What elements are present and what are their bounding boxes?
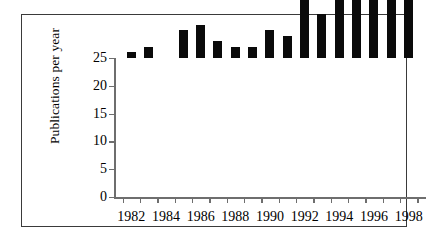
x-tick-mark — [261, 198, 262, 203]
figure-canvas: Publications per year 0510152025 1982198… — [0, 0, 427, 246]
bar — [144, 47, 153, 58]
y-tick-label: 5 — [100, 162, 107, 176]
x-tick-mark — [227, 198, 228, 203]
y-tick-label: 15 — [93, 107, 107, 121]
bar — [283, 36, 292, 58]
bars-layer — [114, 58, 426, 197]
x-tick-label: 1984 — [152, 210, 180, 224]
x-tick-mark — [313, 198, 314, 203]
x-tick-mark — [244, 198, 245, 203]
x-tick-label: 1992 — [291, 210, 319, 224]
x-tick-mark — [296, 198, 297, 203]
x-tick-label: 1990 — [256, 210, 284, 224]
x-tick-label: 1998 — [395, 210, 423, 224]
x-tick-mark — [400, 198, 401, 203]
bar — [387, 0, 396, 58]
bar — [317, 14, 326, 58]
bar — [248, 47, 257, 58]
x-tick-mark — [123, 198, 124, 203]
bar — [352, 0, 361, 58]
x-tick-mark — [140, 198, 141, 203]
chart-frame-border: Publications per year 0510152025 1982198… — [21, 14, 407, 227]
bar — [213, 41, 222, 58]
y-axis-title: Publications per year — [47, 11, 65, 161]
y-tick-mark — [109, 197, 114, 198]
x-tick-mark — [192, 198, 193, 203]
bar — [196, 25, 205, 58]
plot-area: 0510152025 19821984198619881990199219941… — [114, 58, 426, 197]
x-tick-mark — [417, 198, 418, 203]
x-tick-mark — [383, 198, 384, 203]
x-axis-line — [114, 197, 426, 199]
x-tick-mark — [175, 198, 176, 203]
x-tick-mark — [365, 198, 366, 203]
bar — [335, 0, 344, 58]
y-tick-label: 25 — [93, 51, 107, 65]
x-tick-mark — [331, 198, 332, 203]
bar — [179, 30, 188, 58]
bar — [231, 47, 240, 58]
x-tick-label: 1996 — [360, 210, 388, 224]
y-tick-label: 20 — [93, 79, 107, 93]
bar — [265, 30, 274, 58]
x-tick-mark — [209, 198, 210, 203]
x-tick-mark — [279, 198, 280, 203]
x-tick-label: 1986 — [187, 210, 215, 224]
bar — [404, 0, 413, 58]
x-tick-mark — [157, 198, 158, 203]
bar — [369, 0, 378, 58]
x-tick-label: 1982 — [117, 210, 145, 224]
x-tick-mark — [348, 198, 349, 203]
y-tick-label: 10 — [93, 134, 107, 148]
y-tick-label: 0 — [100, 190, 107, 204]
bar — [300, 0, 309, 58]
x-tick-label: 1994 — [325, 210, 353, 224]
bar — [127, 52, 136, 58]
x-tick-label: 1988 — [221, 210, 249, 224]
